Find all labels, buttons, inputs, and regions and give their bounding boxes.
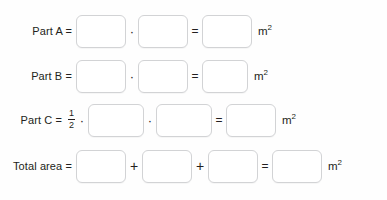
part-b-result-input[interactable] xyxy=(202,60,248,93)
unit-base: m xyxy=(282,114,292,126)
part-b-label: Part B = xyxy=(0,70,76,82)
total-area-label: Total area = xyxy=(0,160,76,172)
unit-base: m xyxy=(258,25,268,37)
part-a-unit-label: m2 xyxy=(258,25,272,37)
area-worksheet: Part A = · = m2 Part B = · = m2 Part C =… xyxy=(0,0,387,200)
multiply-operator-icon: · xyxy=(126,25,138,38)
part-c-factor-2-input[interactable] xyxy=(156,104,212,137)
part-b-unit-label: m2 xyxy=(254,70,268,82)
unit-exponent: 2 xyxy=(264,68,268,77)
equation-row-total-area: Total area = + + = m2 xyxy=(0,147,342,185)
multiply-operator-icon: · xyxy=(126,70,138,83)
part-a-factor-1-input[interactable] xyxy=(76,15,126,48)
part-a-label: Part A = xyxy=(0,25,76,37)
equals-operator-icon: = xyxy=(188,24,202,38)
fraction-denominator: 2 xyxy=(68,121,75,130)
equals-operator-icon: = xyxy=(212,113,226,127)
part-b-factor-2-input[interactable] xyxy=(138,60,188,93)
multiply-operator-icon: · xyxy=(144,114,156,127)
unit-exponent: 2 xyxy=(292,112,296,121)
total-term-1-input[interactable] xyxy=(76,150,126,183)
equals-operator-icon: = xyxy=(188,69,202,83)
part-c-label: Part C = xyxy=(0,114,66,126)
equation-row-part-a: Part A = · = m2 xyxy=(0,12,272,50)
total-term-2-input[interactable] xyxy=(142,150,192,183)
part-c-factor-1-input[interactable] xyxy=(88,104,144,137)
equals-operator-icon: = xyxy=(258,159,272,173)
one-half-fraction: 1 2 xyxy=(68,109,75,129)
plus-operator-icon: + xyxy=(126,158,142,174)
unit-base: m xyxy=(328,160,338,172)
total-area-unit-label: m2 xyxy=(328,160,342,172)
part-b-factor-1-input[interactable] xyxy=(76,60,126,93)
multiply-operator-icon: · xyxy=(76,114,88,127)
total-term-3-input[interactable] xyxy=(208,150,258,183)
unit-base: m xyxy=(254,70,264,82)
part-c-result-input[interactable] xyxy=(226,104,276,137)
plus-operator-icon: + xyxy=(192,158,208,174)
part-c-unit-label: m2 xyxy=(282,114,296,126)
equation-row-part-c: Part C = 1 2 · · = m2 xyxy=(0,101,296,139)
part-a-result-input[interactable] xyxy=(202,15,252,48)
part-a-factor-2-input[interactable] xyxy=(138,15,188,48)
total-result-input[interactable] xyxy=(272,150,322,183)
unit-exponent: 2 xyxy=(268,23,272,32)
fraction-numerator: 1 xyxy=(68,109,75,118)
equation-row-part-b: Part B = · = m2 xyxy=(0,57,268,95)
unit-exponent: 2 xyxy=(338,158,342,167)
